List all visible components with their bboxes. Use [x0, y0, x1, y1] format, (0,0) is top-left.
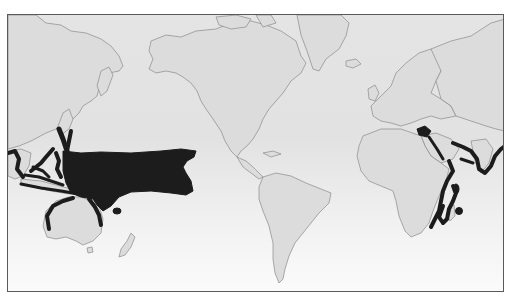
world-map — [8, 15, 504, 292]
central-america — [237, 157, 263, 179]
range-seychelles-area — [453, 184, 459, 194]
south-america — [259, 173, 331, 283]
range-mascarene-islands — [456, 208, 463, 215]
new-zealand — [119, 233, 135, 257]
tasmania — [87, 247, 93, 253]
range-india-coast — [461, 159, 473, 163]
range-japan-coast-2 — [67, 131, 71, 151]
range-new-caledonia — [113, 208, 121, 214]
iceland — [346, 59, 361, 68]
north-america — [149, 21, 306, 157]
map-frame — [7, 14, 504, 292]
british-isles — [368, 85, 379, 101]
caribbean-islands — [263, 151, 281, 157]
range-philippines — [56, 153, 61, 177]
